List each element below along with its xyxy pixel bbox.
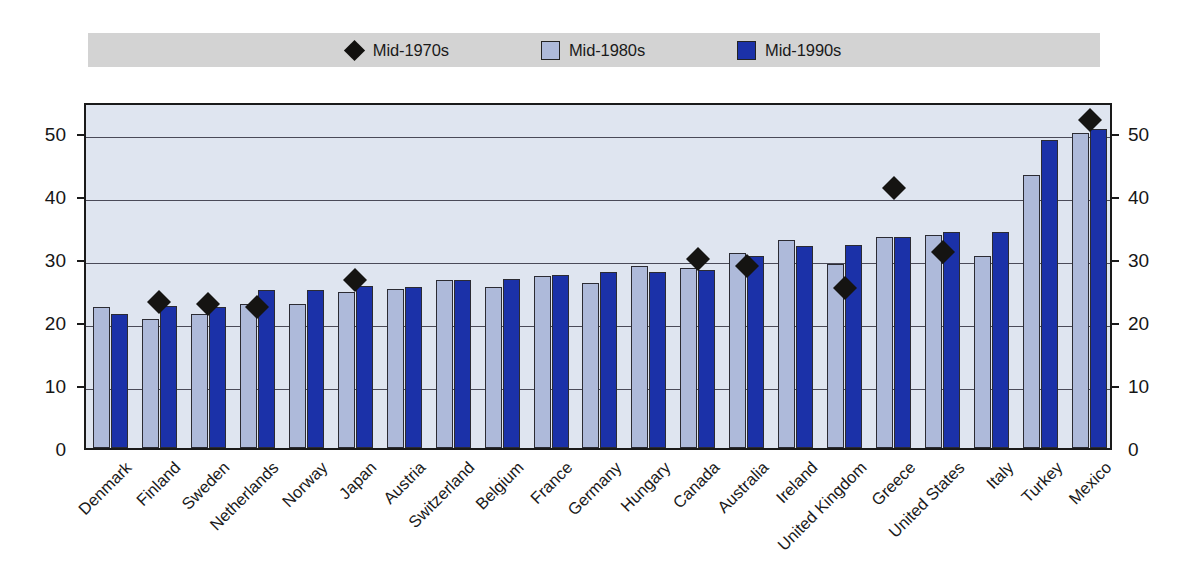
bar-mid-1990s — [698, 270, 715, 448]
y-axis-label-left-40: 40 — [26, 187, 66, 209]
bar-mid-1980s — [778, 240, 795, 448]
legend-item-mid-1970s: Mid-1970s — [347, 41, 449, 60]
bar-mid-1990s — [454, 280, 471, 448]
bar-group — [429, 105, 478, 448]
bar-mid-1980s — [729, 253, 746, 448]
bar-mid-1990s — [649, 272, 666, 448]
bar-mid-1980s — [289, 304, 306, 448]
diamond-marker-icon — [882, 176, 906, 200]
bar-group — [722, 105, 771, 448]
bar-mid-1990s — [356, 286, 373, 448]
bar-mid-1990s — [111, 314, 128, 448]
bar-mid-1990s — [503, 279, 520, 448]
bar-group — [624, 105, 673, 448]
plot-area — [84, 103, 1112, 450]
chart-container: Mid-1970s Mid-1980s Mid-1990s 0010102020… — [0, 0, 1196, 583]
bar-group — [331, 105, 380, 448]
bar-group — [233, 105, 282, 448]
legend-item-mid-1990s: Mid-1990s — [737, 41, 841, 60]
bar-mid-1980s — [680, 268, 697, 448]
bar-group — [527, 105, 576, 448]
bar-group — [820, 105, 869, 448]
y-axis-label-right-40: 40 — [1128, 187, 1149, 209]
bar-mid-1990s — [1041, 140, 1058, 448]
y-axis-label-right-20: 20 — [1128, 313, 1149, 335]
bar-group — [282, 105, 331, 448]
bar-mid-1990s — [307, 290, 324, 448]
y-axis-label-left-30: 30 — [26, 250, 66, 272]
y-axis-label-left-50: 50 — [26, 124, 66, 146]
bar-mid-1990s — [552, 275, 569, 448]
bar-mid-1980s — [631, 266, 648, 448]
bar-mid-1990s — [747, 256, 764, 448]
category-axis-labels: DenmarkFinlandSwedenNetherlandsNorwayJap… — [0, 452, 1196, 583]
y-tick-left-30 — [77, 260, 86, 262]
y-tick-left-10 — [77, 386, 86, 388]
y-axis-label-right-10: 10 — [1128, 376, 1149, 398]
legend-label-mid-1980s: Mid-1980s — [569, 41, 645, 60]
bar-mid-1980s — [338, 292, 355, 448]
bar-group — [478, 105, 527, 448]
bar-mid-1980s — [534, 276, 551, 448]
bar-mid-1980s — [1023, 175, 1040, 448]
bar-mid-1980s — [436, 280, 453, 448]
y-tick-left-20 — [77, 323, 86, 325]
y-axis-label-right-30: 30 — [1128, 250, 1149, 272]
y-tick-left-40 — [77, 197, 86, 199]
y-tick-right-40 — [1110, 197, 1119, 199]
bar-group — [771, 105, 820, 448]
bar-mid-1980s — [240, 304, 257, 448]
y-tick-right-50 — [1110, 134, 1119, 136]
diamond-marker-icon — [1077, 108, 1101, 132]
y-tick-left-50 — [77, 134, 86, 136]
bar-group — [380, 105, 429, 448]
legend-label-mid-1970s: Mid-1970s — [373, 41, 449, 60]
legend-item-mid-1980s: Mid-1980s — [541, 41, 645, 60]
bar-group — [673, 105, 722, 448]
y-tick-right-10 — [1110, 386, 1119, 388]
bar-group — [1065, 105, 1114, 448]
y-axis-label-left-10: 10 — [26, 376, 66, 398]
bar-mid-1990s — [894, 237, 911, 448]
bar-mid-1980s — [876, 237, 893, 448]
chart-legend: Mid-1970s Mid-1980s Mid-1990s — [88, 33, 1100, 67]
y-tick-right-30 — [1110, 260, 1119, 262]
bar-mid-1990s — [209, 307, 226, 448]
bar-mid-1990s — [845, 245, 862, 448]
bar-mid-1990s — [160, 306, 177, 448]
bar-group — [576, 105, 625, 448]
bar-group — [918, 105, 967, 448]
bar-mid-1980s — [582, 283, 599, 448]
bar-group — [135, 105, 184, 448]
bar-mid-1980s — [387, 289, 404, 448]
bar-mid-1990s — [405, 287, 422, 448]
bar-mid-1990s — [600, 272, 617, 448]
square-marker-dark-icon — [737, 41, 756, 60]
bar-mid-1990s — [796, 246, 813, 448]
bar-group — [869, 105, 918, 448]
diamond-marker-icon — [344, 39, 365, 60]
bar-mid-1980s — [1072, 133, 1089, 448]
y-tick-right-20 — [1110, 323, 1119, 325]
bar-mid-1980s — [142, 319, 159, 448]
bar-mid-1990s — [1090, 129, 1107, 448]
bar-group — [184, 105, 233, 448]
bar-mid-1980s — [925, 235, 942, 448]
bar-mid-1980s — [485, 287, 502, 448]
y-axis-label-left-20: 20 — [26, 313, 66, 335]
square-marker-light-icon — [541, 41, 560, 60]
bar-group — [1016, 105, 1065, 448]
series-layer — [86, 105, 1110, 448]
bar-mid-1980s — [93, 307, 110, 448]
legend-label-mid-1990s: Mid-1990s — [765, 41, 841, 60]
bar-mid-1990s — [992, 232, 1009, 448]
bar-mid-1980s — [974, 256, 991, 448]
bar-group — [86, 105, 135, 448]
bar-mid-1990s — [943, 232, 960, 448]
bar-group — [967, 105, 1016, 448]
bar-mid-1980s — [191, 314, 208, 448]
y-axis-label-right-50: 50 — [1128, 124, 1149, 146]
